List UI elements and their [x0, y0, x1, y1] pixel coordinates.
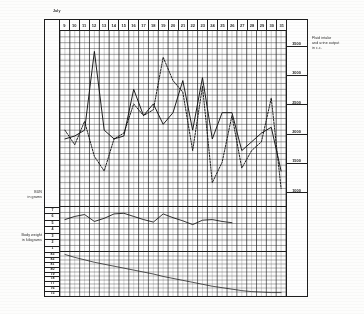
- day-header-cell: 31: [277, 20, 286, 30]
- scale-label: 3: [45, 234, 60, 238]
- fluid-tick-label: 1000: [286, 188, 307, 193]
- scale-label: 81: [45, 262, 60, 266]
- day-header-cell: 22: [188, 20, 198, 30]
- day-header-cell: 24: [208, 20, 218, 30]
- day-header-cell: 10: [70, 20, 80, 30]
- day-header-cell: 27: [238, 20, 248, 30]
- scale-label: 80: [45, 267, 60, 271]
- scale-label: 76: [45, 286, 60, 290]
- bun-panel: [60, 207, 286, 252]
- scale-label: 1: [45, 246, 60, 250]
- scale-label: 82: [45, 257, 60, 261]
- day-header-row: 9101112131415161718192021222324252627282…: [60, 20, 286, 31]
- bun-plot: [60, 207, 286, 251]
- day-header-cell: 28: [248, 20, 258, 30]
- day-header-cell: 26: [228, 20, 238, 30]
- scale-label: 75: [45, 291, 60, 295]
- day-header-cell: 23: [198, 20, 208, 30]
- day-header-cell: 19: [159, 20, 169, 30]
- scale-label: 7: [45, 208, 60, 212]
- day-header-cell: 12: [90, 20, 100, 30]
- day-header-cell: 14: [109, 20, 119, 30]
- fluid-tick-label: 3000: [286, 70, 307, 75]
- weight-plot: [60, 252, 286, 296]
- scale-label: 77: [45, 281, 60, 285]
- day-header-cell: 18: [149, 20, 159, 30]
- day-header-cell: 17: [139, 20, 149, 30]
- scale-label: 78: [45, 276, 60, 280]
- weight-scale: 838281807978777675: [45, 252, 60, 296]
- day-header-cell: 15: [119, 20, 129, 30]
- fluid-tick-label: 1500: [286, 158, 307, 163]
- day-header-cell: 13: [100, 20, 110, 30]
- day-header-cell: 20: [169, 20, 179, 30]
- chart-frame: 7654321 838281807978777675 9101112131415…: [44, 19, 308, 297]
- fluid-tick-label: 3500: [286, 41, 307, 46]
- fluid-tick-label: 2000: [286, 129, 307, 134]
- day-header-cell: 25: [218, 20, 228, 30]
- scale-label: 6: [45, 214, 60, 218]
- day-header-cell: 29: [258, 20, 268, 30]
- fluid-caption: Fluid intake and urine output in c.c.: [312, 36, 362, 52]
- month-label: July: [53, 9, 61, 14]
- day-header-cell: 9: [60, 20, 70, 30]
- weight-caption: Body weight in kilograms: [2, 233, 42, 243]
- scale-label: 4: [45, 227, 60, 231]
- fluid-panel: 350030002500200015001000: [60, 31, 286, 207]
- scale-label: 79: [45, 272, 60, 276]
- chart-scan: July Fluid intake and urine output in c.…: [0, 0, 364, 314]
- scale-label: 5: [45, 221, 60, 225]
- bun-scale: 7654321: [45, 207, 60, 252]
- day-header-cell: 16: [129, 20, 139, 30]
- scale-label: 2: [45, 240, 60, 244]
- fluid-plot: [60, 31, 286, 206]
- day-header-cell: 30: [267, 20, 277, 30]
- bun-caption: BUN in grams: [8, 190, 42, 200]
- day-header-cell: 11: [80, 20, 90, 30]
- fluid-tick-label: 2500: [286, 100, 307, 105]
- left-scale-gutter: 7654321 838281807978777675: [45, 20, 60, 296]
- scale-label: 83: [45, 252, 60, 256]
- day-header-cell: 21: [179, 20, 189, 30]
- weight-panel: [60, 252, 286, 296]
